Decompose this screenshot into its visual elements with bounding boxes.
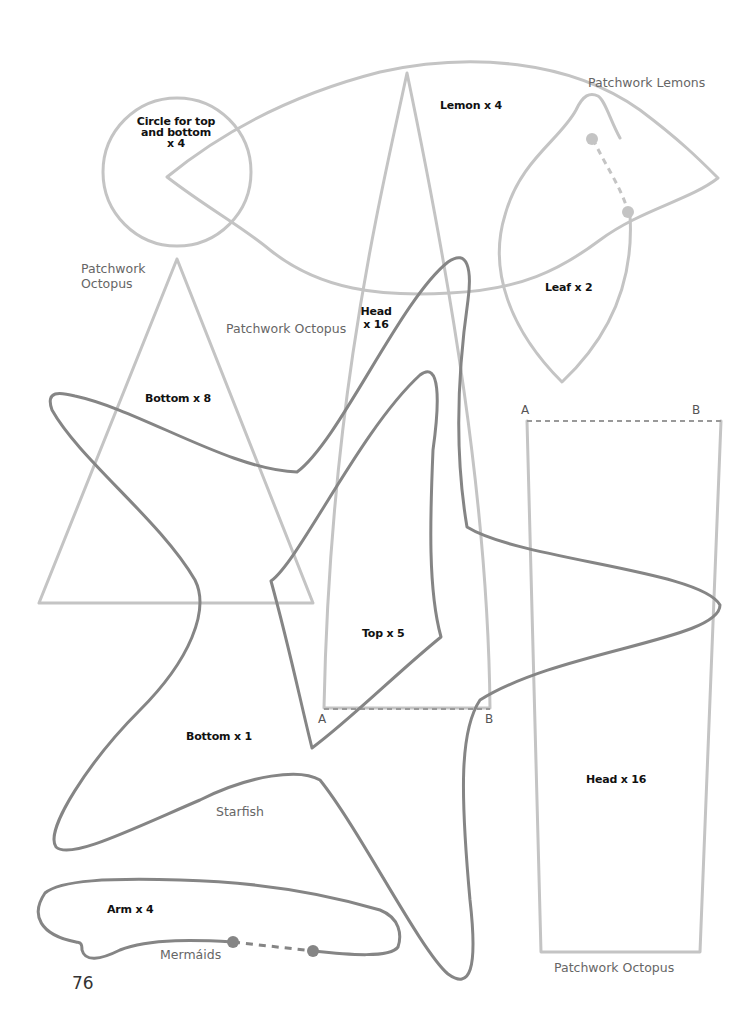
bottom-triangle-piece-label: Bottom x 8 [145,393,225,404]
lemons-caption: Patchwork Lemons [588,75,705,90]
starfish-bottom-pattern-outline [50,258,720,980]
leaf-pattern-outline [499,94,630,382]
octopus-caption-bottom: Patchwork Octopus [554,960,674,975]
leaf-piece-label: Leaf x 2 [545,282,625,293]
head-panel-piece-label: Head x 16 [586,774,676,785]
head-cone-pattern-outline [324,73,490,708]
cone-marker-b: B [485,712,493,726]
mermaid-seam-dot-right [307,945,319,957]
circle-piece-label: Circle for top and bottom x 4 [128,116,224,149]
leaf-seam-dot-top [586,133,598,145]
pattern-sheet [0,0,738,1031]
octopus-caption-middle: Patchwork Octopus [226,321,346,336]
mermaids-caption: Mermáids [160,947,221,962]
head-panel-marker-a: A [521,403,529,417]
lemon-piece-label: Lemon x 4 [440,100,520,111]
mermaid-arm-seam-line [233,942,313,951]
cone-marker-a: A [318,712,326,726]
leaf-seam-dot-bottom [622,206,634,218]
octopus-caption-left: Patchwork Octopus [81,261,146,291]
head-panel-marker-b: B [692,403,700,417]
starfish-top-piece-label: Top x 5 [362,628,442,639]
page-number: 76 [72,973,94,993]
head-cone-piece-label: Head x 16 [358,305,394,331]
starfish-caption: Starfish [216,804,264,819]
head-panel-pattern-outline [527,421,721,952]
starfish-bottom-piece-label: Bottom x 1 [186,731,276,742]
leaf-seam-line [593,139,628,211]
arm-piece-label: Arm x 4 [107,904,187,915]
mermaid-seam-dot-left [227,936,239,948]
